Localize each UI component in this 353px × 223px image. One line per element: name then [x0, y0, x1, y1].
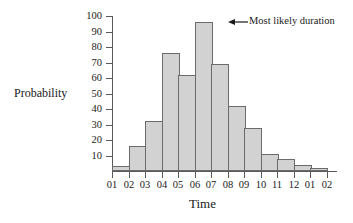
x-axis-tick: [327, 172, 328, 178]
x-axis-tick-label: 02: [317, 180, 337, 191]
y-axis-tick: [106, 47, 113, 48]
x-axis-tick: [228, 172, 229, 178]
x-axis-tick: [112, 172, 113, 178]
left-arrow-icon: [228, 18, 248, 26]
y-axis-tick: [106, 16, 113, 17]
chart-figure: Probability 102030405060708090100 010203…: [0, 0, 353, 223]
x-axis-tick: [178, 172, 179, 178]
bar: [211, 64, 229, 171]
y-axis-tick-label: 40: [76, 104, 102, 115]
bar: [145, 121, 163, 171]
y-axis-tick: [106, 32, 113, 33]
bar: [244, 128, 262, 171]
y-axis-tick: [106, 109, 113, 110]
y-axis-tick: [106, 78, 113, 79]
x-axis-title-text: Time: [189, 196, 216, 211]
y-axis-tick: [106, 94, 113, 95]
annotation-label: Most likely duration: [249, 15, 335, 26]
y-axis-tick-label: 30: [76, 120, 102, 131]
y-axis-tick-label: 10: [76, 151, 102, 162]
bar: [277, 159, 295, 171]
bar: [178, 75, 196, 171]
y-axis-tick-label: 100: [76, 11, 102, 22]
x-axis-tick: [244, 172, 245, 178]
y-axis-tick-label: 50: [76, 89, 102, 100]
y-axis-title: Probability: [14, 86, 67, 101]
y-axis-tick: [106, 63, 113, 64]
x-axis-tick: [162, 172, 163, 178]
x-axis-tick: [277, 172, 278, 178]
x-axis-tick: [310, 172, 311, 178]
x-axis-tick: [294, 172, 295, 178]
y-axis-tick: [106, 156, 113, 157]
bar: [112, 166, 130, 171]
x-axis-title: Time: [0, 196, 353, 212]
x-axis-tick: [195, 172, 196, 178]
y-axis-tick-label: 20: [76, 135, 102, 146]
y-axis-tick: [106, 125, 113, 126]
y-axis-tick-label: 60: [76, 73, 102, 84]
y-axis-tick: [106, 140, 113, 141]
bar: [310, 168, 328, 171]
y-axis-tick-label: 90: [76, 27, 102, 38]
x-axis-tick: [129, 172, 130, 178]
x-axis-tick: [261, 172, 262, 178]
x-axis-tick: [145, 172, 146, 178]
y-axis-tick-label: 80: [76, 42, 102, 53]
y-axis-tick-label: 70: [76, 58, 102, 69]
x-axis-tick: [211, 172, 212, 178]
